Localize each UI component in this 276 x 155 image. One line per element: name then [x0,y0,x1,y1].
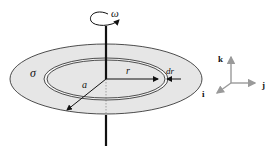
coordinate-axes: k j i [202,54,265,99]
rotating-disk-diagram: ω r dr a σ k j i [0,0,276,155]
dr-label: dr [166,66,175,76]
r-label: r [126,65,130,76]
a-label: a [82,79,87,90]
j-axis-label: j [261,80,265,90]
omega-label: ω [111,7,119,19]
i-axis-label: i [202,89,205,99]
k-axis-label: k [218,54,223,64]
